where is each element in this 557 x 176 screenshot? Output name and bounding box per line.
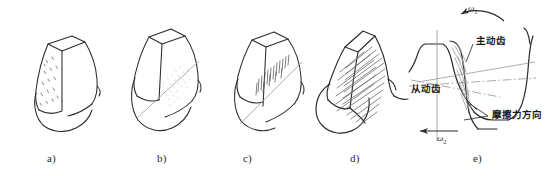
panel-a-pitting-marks: [40, 57, 58, 105]
friction-direction-label: 摩擦力方向: [492, 110, 542, 120]
panel-b-tooth: [132, 29, 201, 131]
panel-e-driving-leader: [466, 44, 473, 62]
gear-tooth-damage-figure: 主动齿 从动齿 摩擦力方向 ω1 ω2 a) b) c) d) e): [0, 0, 557, 176]
caption-panel-a: a): [47, 152, 56, 164]
panel-d-scuffing-marks: [336, 47, 385, 124]
panel-a-tooth: [35, 36, 100, 132]
omega2-label: ω2: [437, 134, 447, 145]
driving-tooth-label: 主动齿: [476, 36, 506, 46]
omega1-subscript: 1: [474, 8, 477, 15]
caption-panel-e: e): [473, 152, 482, 164]
panel-c-scoring-marks: [256, 55, 289, 95]
driven-tooth-label: 从动齿: [411, 84, 441, 94]
panel-b-pitch-line: [138, 61, 199, 117]
panel-d-tooth: [316, 31, 408, 133]
caption-panel-b: b): [157, 152, 167, 164]
panel-b-spall-stipple: [161, 64, 191, 106]
figure-drawing-canvas: [0, 0, 557, 176]
caption-panel-d: d): [350, 152, 360, 164]
omega2-subscript: 2: [443, 138, 446, 145]
caption-panel-c: c): [243, 152, 252, 164]
omega1-label: ω1: [468, 4, 478, 15]
